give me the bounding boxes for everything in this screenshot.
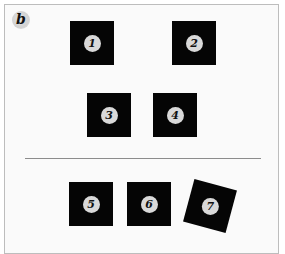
square-5: 5 <box>69 182 113 226</box>
square-number-badge: 6 <box>141 196 158 213</box>
square-number-badge: 2 <box>186 35 203 52</box>
square-4: 4 <box>153 93 197 137</box>
panel-label: b <box>12 11 30 29</box>
square-1: 1 <box>70 21 114 65</box>
square-number-badge: 3 <box>101 107 118 124</box>
square-number-badge: 5 <box>83 196 100 213</box>
square-number-badge: 7 <box>202 198 219 215</box>
square-number-badge: 4 <box>167 107 184 124</box>
square-3: 3 <box>87 93 131 137</box>
square-2: 2 <box>172 21 216 65</box>
square-number-badge: 1 <box>84 35 101 52</box>
group-divider <box>25 158 261 159</box>
square-6: 6 <box>127 182 171 226</box>
